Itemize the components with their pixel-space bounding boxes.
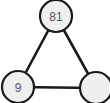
graph-node-bottom-left[interactable]: 9 [2,71,34,103]
node-label-bottom-left: 9 [15,81,22,95]
graph-node-top[interactable]: 81 [40,0,72,32]
graph-canvas-svg: 81 9 [0,0,110,103]
graph-diagram: 81 9 [0,0,110,103]
node-circle-bottom-right[interactable] [80,72,110,103]
graph-node-bottom-right[interactable] [80,72,110,103]
node-label-top: 81 [49,10,63,24]
